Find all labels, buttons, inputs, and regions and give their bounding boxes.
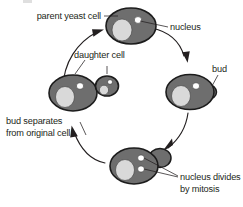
arrow-bud-to-mitosis [162,113,188,152]
label-daughter-cell: daughter cell [74,50,125,60]
yeast-budding-cycle-diagram: parent yeast cell nucleus bud nucleus di… [0,0,243,207]
parent-cell-nucleus [134,17,141,24]
parent-cell-vacuole [112,19,132,41]
original-cell-nucleus [76,83,83,90]
label-bud: bud [212,64,227,74]
stage-bud-forms [166,75,217,110]
bud-separates-leader-line [80,122,86,135]
stage-parent-yeast-cell [106,8,156,44]
daughter-cell-nucleus [108,80,113,85]
daughter-cell-leader-line-2 [75,60,85,74]
arrow-separation-to-parent-head [92,29,104,37]
label-nucleus-divides-line2: by mitosis [180,184,220,194]
mitosis-cell-nucleus-b [138,166,145,172]
arrow-parent-to-bud [152,28,190,63]
arrow-mitosis-to-separation-head [70,126,78,138]
stage-bud-separates [49,75,119,111]
label-bud-separates-line2: from original cell [6,128,70,138]
mitosis-cell-vacuole [116,160,135,181]
arrow-parent-to-bud-head [182,51,190,63]
label-bud-separates-line1: bud separates [6,116,63,126]
budding-cell-vacuole [172,86,191,107]
arrow-mitosis-to-separation [70,126,105,163]
stage-nucleus-divides [110,148,171,184]
crop-artifact [23,0,32,3]
original-cell-vacuole [56,87,75,108]
diagram-canvas: parent yeast cell nucleus bud nucleus di… [0,0,243,207]
daughter-cell-vacuole [99,85,108,95]
label-nucleus-divides-line1: nucleus divides [180,172,241,182]
label-nucleus: nucleus [170,22,201,32]
budding-cell-nucleus [192,83,199,90]
label-parent-yeast-cell: parent yeast cell [37,11,101,21]
bud-leader-line [212,75,218,86]
mitosis-cell-nucleus-a [138,155,145,161]
